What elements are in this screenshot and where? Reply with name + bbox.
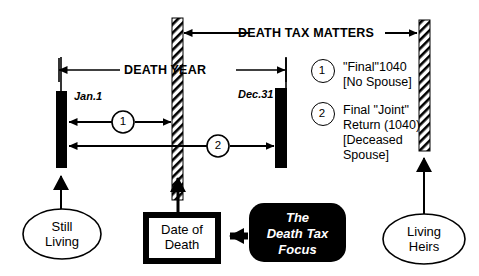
focus-line3: Focus <box>250 242 345 258</box>
jan1-bar <box>56 57 67 168</box>
legend-2-line1: Final "Joint" <box>343 103 409 118</box>
still-living-node: Still Living <box>23 219 101 249</box>
legend-2-number: 2 <box>314 107 330 119</box>
dec31-label: Dec.31 <box>238 88 273 100</box>
date-of-death-hatched-bar <box>172 18 183 200</box>
focus-line2: Death Tax <box>250 226 345 242</box>
legend-2-line4: Spouse] <box>343 148 389 163</box>
living-heirs-line2: Heirs <box>385 239 463 254</box>
still-living-line2: Living <box>23 234 101 249</box>
legend-1-line1: "Final"1040 <box>343 60 407 75</box>
living-heirs-hatched-bar <box>419 20 430 151</box>
focus-line1: The <box>250 210 345 226</box>
legend-2-line3: [Deceased <box>343 133 403 148</box>
death-tax-focus-node: The Death Tax Focus <box>250 210 345 258</box>
marker-2-number: 2 <box>210 139 226 151</box>
still-living-line1: Still <box>23 219 101 234</box>
legend-1-number: 1 <box>314 64 330 76</box>
legend-2-line2: Return (1040) <box>343 118 420 133</box>
living-heirs-line1: Living <box>385 224 463 239</box>
date-of-death-line1: Date of <box>148 222 216 237</box>
death-tax-matters-label: DEATH TAX MATTERS <box>238 26 374 40</box>
living-heirs-node: Living Heirs <box>385 224 463 254</box>
marker-1-number: 1 <box>115 115 131 127</box>
date-of-death-line2: Death <box>148 237 216 252</box>
date-of-death-node: Date of Death <box>148 222 216 252</box>
jan1-label: Jan.1 <box>74 90 102 102</box>
diagram-canvas: DEATH TAX MATTERS DEATH YEAR Jan.1 Dec.3… <box>0 0 479 276</box>
legend-1-line2: [No Spouse] <box>343 75 412 90</box>
death-year-label: DEATH YEAR <box>124 63 206 77</box>
